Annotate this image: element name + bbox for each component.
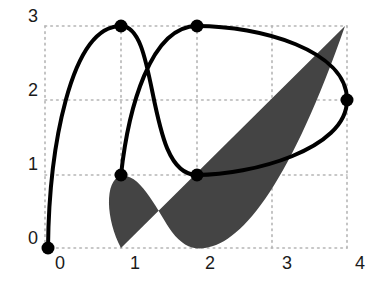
- y-tick-label-1: 1: [28, 155, 38, 173]
- y-tick-label-2: 2: [28, 81, 38, 99]
- x-tick-label-2: 2: [205, 254, 215, 272]
- point-0-0: [42, 242, 55, 255]
- point-1-1: [115, 169, 128, 182]
- y-tick-label-0: 0: [28, 229, 38, 247]
- point-2-3: [191, 20, 204, 33]
- x-tick-label-4: 4: [355, 254, 365, 272]
- point-4-2: [341, 94, 354, 107]
- x-tick-label-3: 3: [282, 254, 292, 272]
- y-tick-label-3: 3: [28, 7, 38, 25]
- point-2-1: [191, 169, 204, 182]
- point-1-3: [115, 20, 128, 33]
- x-tick-label-1: 1: [130, 254, 140, 272]
- diagram-canvas: [0, 0, 385, 292]
- x-tick-label-0: 0: [55, 254, 65, 272]
